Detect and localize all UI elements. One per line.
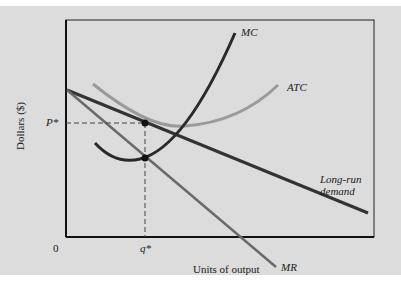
p-star-label: P* xyxy=(46,116,58,128)
x-axis-label: Units of output xyxy=(193,263,260,275)
equilibrium-point xyxy=(142,120,149,127)
q-star-label: q* xyxy=(140,242,151,254)
diagram-svg xyxy=(0,0,401,297)
demand-label-line2: demand xyxy=(320,185,362,197)
mc-label: MC xyxy=(241,26,258,38)
atc-curve xyxy=(93,84,278,126)
mr-curve xyxy=(67,90,276,267)
mc-curve xyxy=(95,33,235,160)
atc-label: ATC xyxy=(287,81,307,93)
mr-mc-intersection-point xyxy=(142,155,149,162)
demand-label-line1: Long-run xyxy=(320,173,362,185)
long-run-demand-label: Long-run demand xyxy=(320,173,362,197)
mr-label: MR xyxy=(281,261,297,273)
y-axis-label: Dollars ($) xyxy=(14,102,26,150)
origin-label: 0 xyxy=(53,242,59,254)
